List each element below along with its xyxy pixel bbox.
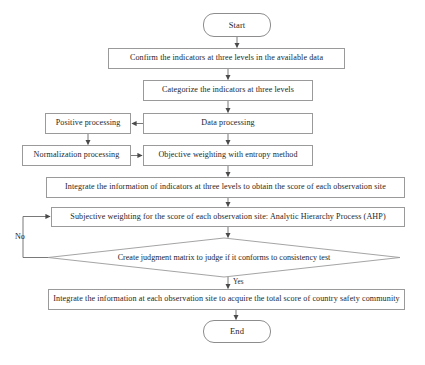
node-normalization-processing[interactable]: Normalization processing: [22, 145, 131, 166]
node-positive-processing-label: Positive processing: [53, 119, 124, 127]
node-normalization-processing-label: Normalization processing: [31, 151, 123, 159]
edge-label-yes-text: Yes: [233, 278, 243, 286]
node-integrate-total-score-label: Integrate the information at each observ…: [50, 295, 403, 303]
node-integrate-total-score[interactable]: Integrate the information at each observ…: [48, 289, 405, 310]
node-categorize-indicators-label: Categorize the indicators at three level…: [159, 86, 297, 94]
node-objective-weighting[interactable]: Objective weighting with entropy method: [143, 145, 313, 166]
node-data-processing-label: Data processing: [198, 119, 257, 127]
edge-label-no: No: [15, 232, 25, 241]
edge-consistency-no-loop: [23, 217, 50, 258]
node-subjective-weighting[interactable]: Subjective weighting for the score of ea…: [51, 207, 405, 227]
edge-label-no-text: No: [15, 232, 25, 241]
node-objective-weighting-label: Objective weighting with entropy method: [155, 151, 300, 159]
node-start[interactable]: Start: [203, 13, 271, 37]
node-integrate-indicators-label: Integrate the information of indicators …: [62, 183, 389, 191]
node-consistency-test-label: Create judgment matrix to judge if it co…: [118, 253, 331, 262]
node-positive-processing[interactable]: Positive processing: [45, 113, 131, 134]
node-confirm-indicators-label: Confirm the indicators at three levels i…: [127, 54, 326, 62]
edge-label-yes: Yes: [233, 278, 243, 286]
node-categorize-indicators[interactable]: Categorize the indicators at three level…: [143, 80, 313, 101]
node-subjective-weighting-label: Subjective weighting for the score of ea…: [67, 213, 388, 221]
node-data-processing[interactable]: Data processing: [143, 113, 313, 134]
node-end-label: End: [227, 327, 247, 336]
node-confirm-indicators[interactable]: Confirm the indicators at three levels i…: [108, 48, 345, 69]
node-end[interactable]: End: [203, 320, 271, 343]
node-start-label: Start: [226, 21, 249, 30]
node-integrate-indicators[interactable]: Integrate the information of indicators …: [46, 177, 405, 198]
node-consistency-test[interactable]: Create judgment matrix to judge if it co…: [48, 238, 400, 277]
flowchart-diagram: Start Confirm the indicators at three le…: [0, 0, 425, 365]
